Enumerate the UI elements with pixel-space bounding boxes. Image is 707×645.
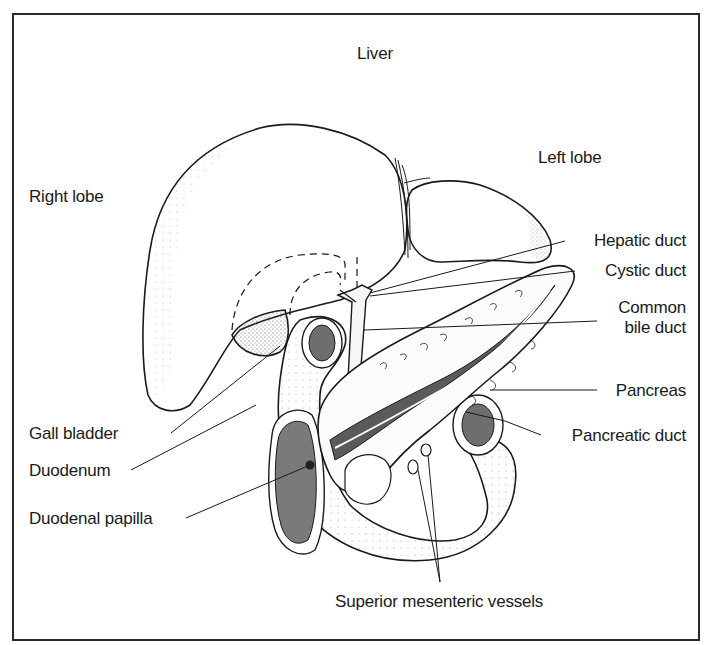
label-pancreatic-duct: Pancreatic duct — [572, 426, 686, 446]
label-pancreas: Pancreas — [616, 381, 686, 401]
label-hepatic-duct: Hepatic duct — [594, 231, 686, 251]
superior-mesenteric-vessels — [408, 444, 431, 474]
label-duodenum: Duodenum — [29, 461, 111, 481]
leader-mesenteric-1 — [418, 470, 440, 582]
label-cystic-duct: Cystic duct — [605, 261, 686, 281]
label-superior-mesenteric-vessels: Superior mesenteric vessels — [335, 592, 543, 612]
anatomy-illustration — [0, 0, 707, 645]
leader-mesenteric-2 — [428, 455, 440, 582]
label-right-lobe: Right lobe — [29, 187, 104, 207]
label-common-bile-duct-line2: bile duct — [624, 318, 686, 338]
label-liver: Liver — [357, 44, 393, 64]
label-gall-bladder: Gall bladder — [29, 424, 118, 444]
label-common-bile-duct-line1: Common — [618, 298, 686, 318]
label-duodenal-papilla: Duodenal papilla — [29, 509, 152, 529]
label-left-lobe: Left lobe — [538, 148, 601, 168]
